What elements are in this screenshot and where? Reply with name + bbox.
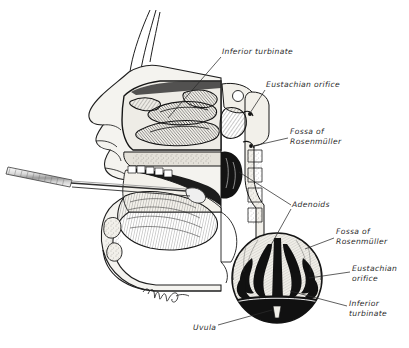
label-inferior-turbinate-inset: Inferiorturbinate <box>349 299 387 318</box>
anatomical-figure: Inferior turbinate Eustachian orifice Fo… <box>0 0 409 348</box>
palate-stipple <box>133 154 211 164</box>
illustration-canvas <box>0 0 409 348</box>
label-eustachian-orifice-main: Eustachian orifice <box>266 80 340 90</box>
adenoid-mass-main <box>221 151 242 198</box>
label-adenoids: Adenoids <box>292 200 330 210</box>
leader-fossa-rosenmuller-inset <box>305 238 334 249</box>
larynx-stipple <box>105 220 121 260</box>
torus-tubarius <box>220 107 246 138</box>
pharyngeal-wall <box>221 212 237 262</box>
label-uvula: Uvula <box>193 323 216 333</box>
label-eustachian-orifice-inset: Eustachianorifice <box>352 264 397 283</box>
pharynx-curve <box>221 262 227 283</box>
spine-stipple <box>247 150 262 224</box>
label-fossa-of-rosenmuller-main: Fossa ofRosenmüller <box>290 127 341 146</box>
label-fossa-of-rosenmuller-inset: Fossa ofRosenmüller <box>336 227 387 246</box>
circular-inset <box>232 233 322 323</box>
label-inferior-turbinate-main: Inferior turbinate <box>222 47 293 57</box>
